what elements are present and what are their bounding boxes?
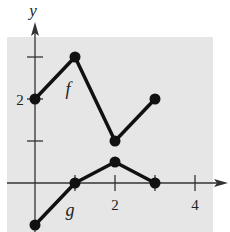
y-tick-label-2: 2 (16, 92, 24, 108)
data-point-f (30, 94, 41, 105)
data-point-g (150, 178, 161, 189)
chart-plot: y 2 4 2 f g (0, 0, 230, 232)
x-tick-label-4: 4 (191, 197, 199, 213)
data-point-g (70, 178, 81, 189)
data-point-g (110, 157, 121, 168)
data-point-f (150, 94, 161, 105)
data-point-f (70, 52, 81, 63)
data-point-g (30, 220, 41, 231)
y-axis-label: y (27, 1, 37, 20)
x-tick-label-2: 2 (111, 197, 119, 213)
data-point-f (110, 136, 121, 147)
series-label-g: g (66, 200, 75, 220)
